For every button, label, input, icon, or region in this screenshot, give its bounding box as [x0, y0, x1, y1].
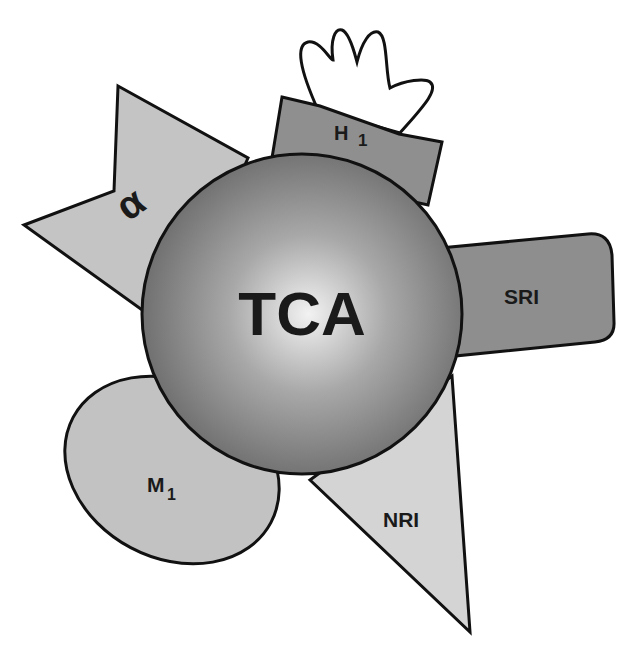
nri-label: NRI — [383, 508, 419, 531]
tca-label: TCA — [238, 279, 365, 348]
tca-receptor-diagram: H 1 α SRI NRI M 1 TCA — [0, 0, 633, 647]
m1-subscript: 1 — [167, 486, 176, 503]
sri-receptor: SRI — [440, 234, 614, 357]
sri-label: SRI — [504, 285, 539, 308]
h1-label: H — [334, 122, 348, 144]
h1-subscript: 1 — [358, 131, 367, 150]
tca-sphere: TCA — [142, 154, 462, 474]
m1-label: M — [147, 473, 165, 496]
